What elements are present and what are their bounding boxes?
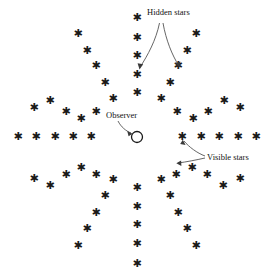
visible-stars-label: Visible stars — [207, 152, 249, 162]
visible-stars-leader-lower — [178, 158, 205, 163]
hidden-stars-label: Hidden stars — [147, 7, 190, 17]
hidden-stars-leader-left — [140, 23, 160, 68]
annotation-layer — [0, 0, 270, 277]
observer-marker — [132, 132, 143, 143]
observer-leader — [118, 121, 131, 133]
visible-stars-leader-upper — [184, 141, 205, 156]
hidden-stars-arrowhead-right — [175, 61, 180, 67]
observer-leader-group — [118, 121, 133, 136]
hidden-stars-leaders — [140, 23, 180, 68]
visible-stars-arrowhead-lower — [176, 161, 181, 166]
observer-label: Observer — [106, 110, 137, 120]
hidden-stars-leader-right — [163, 23, 179, 66]
star-visibility-diagram: ✱✱✱✱✱✱✱✱✱✱✱✱✱✱✱✱✱✱✱✱✱✱✱✱✱✱✱✱✱✱✱✱✱✱✱✱✱✱✱✱… — [0, 0, 270, 277]
observer-circle — [132, 132, 143, 143]
hidden-stars-arrowhead-left — [138, 63, 144, 69]
hidden-stars-arrowheads — [138, 61, 181, 69]
